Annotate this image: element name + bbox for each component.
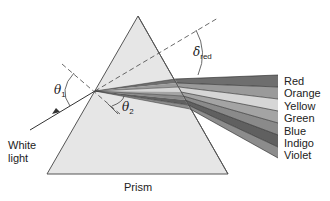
spectrum-label-orange: Orange: [284, 88, 321, 99]
spectrum-label-red: Red: [284, 76, 304, 87]
spectrum-label-blue: Blue: [284, 126, 306, 137]
white-light-label: White light: [8, 140, 36, 164]
theta2-label: θ2: [122, 101, 134, 116]
theta1-arc: [65, 73, 74, 106]
spectrum-label-yellow: Yellow: [284, 101, 315, 112]
theta1-label: θ1: [54, 84, 66, 99]
spectrum-label-indigo: Indigo: [284, 138, 314, 149]
prism-dispersion-diagram: [0, 0, 330, 201]
delta-red-label: δred: [193, 46, 212, 61]
spectrum-label-violet: Violet: [284, 150, 311, 161]
prism-label: Prism: [124, 182, 152, 193]
spectrum-label-green: Green: [284, 113, 315, 124]
